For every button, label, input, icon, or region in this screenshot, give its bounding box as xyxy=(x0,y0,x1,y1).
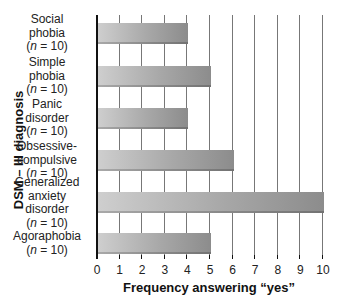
gridline xyxy=(119,15,120,258)
x-tick xyxy=(277,255,278,259)
gridline xyxy=(277,15,278,258)
x-tick xyxy=(299,255,300,259)
x-tick-label: 6 xyxy=(225,263,241,277)
x-tick-label: 9 xyxy=(292,263,308,277)
x-tick xyxy=(254,255,255,259)
bar xyxy=(97,192,324,213)
gridline xyxy=(141,15,142,258)
category-label: Generalizedanxietydisorder(n = 10) xyxy=(4,176,90,230)
gridline xyxy=(254,15,255,258)
category-label: Agoraphobia(n = 10) xyxy=(4,230,90,257)
x-tick-label: 5 xyxy=(202,263,218,277)
bar xyxy=(97,66,211,87)
x-tick xyxy=(164,255,165,259)
x-tick xyxy=(96,255,97,259)
x-axis-label: Frequency answering “yes” xyxy=(96,280,322,295)
y-axis-line xyxy=(96,15,98,259)
x-tick xyxy=(322,255,323,259)
x-tick xyxy=(141,255,142,259)
x-tick xyxy=(209,255,210,259)
gridline xyxy=(209,15,210,258)
gridline xyxy=(164,15,165,258)
x-tick-label: 3 xyxy=(157,263,173,277)
x-tick-label: 2 xyxy=(134,263,150,277)
bar xyxy=(97,108,188,129)
x-tick-label: 7 xyxy=(247,263,263,277)
bar xyxy=(97,150,234,171)
bar xyxy=(97,23,188,44)
bar xyxy=(97,233,211,254)
x-tick-label: 1 xyxy=(112,263,128,277)
bar-chart: DSM – III diagnosis 012345678910 Socialp… xyxy=(0,0,347,301)
x-tick xyxy=(186,255,187,259)
gridline xyxy=(322,15,323,258)
gridline xyxy=(299,15,300,258)
category-label: Panicdisorder(n = 10) xyxy=(4,98,90,139)
x-tick-label: 8 xyxy=(270,263,286,277)
x-tick-label: 0 xyxy=(89,263,105,277)
gridline xyxy=(186,15,187,258)
x-tick xyxy=(232,255,233,259)
x-tick xyxy=(119,255,120,259)
x-tick-label: 4 xyxy=(179,263,195,277)
category-label: Socialphobia(n = 10) xyxy=(4,13,90,54)
gridline xyxy=(232,15,233,258)
category-label: Simplephobia(n = 10) xyxy=(4,56,90,97)
x-tick-label: 10 xyxy=(315,263,331,277)
